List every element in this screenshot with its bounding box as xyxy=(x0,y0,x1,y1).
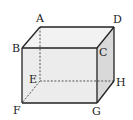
vertex-label-G: G xyxy=(92,105,101,118)
cuboid-diagram: A B C D E F G H xyxy=(0,0,133,120)
vertex-label-D: D xyxy=(113,13,122,26)
vertex-label-A: A xyxy=(35,12,45,25)
vertex-label-B: B xyxy=(12,42,20,55)
vertex-label-F: F xyxy=(13,104,21,117)
vertex-label-E: E xyxy=(29,73,37,86)
vertex-label-H: H xyxy=(116,76,126,89)
cuboid-svg: A B C D E F G H xyxy=(0,0,133,120)
vertex-label-C: C xyxy=(99,46,107,59)
